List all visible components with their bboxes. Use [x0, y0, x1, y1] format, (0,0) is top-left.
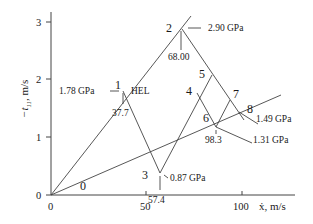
point-label-4: 4: [186, 84, 192, 98]
svg-text:−t11, m/s: −t11, m/s: [18, 80, 33, 118]
path-6-7: [216, 100, 230, 127]
path-1-3: [123, 91, 160, 173]
point-label-1: 1: [115, 78, 121, 92]
diagram-canvas: 3 2 1 0 0 50 100 ẋ, m/s −t11, m/s: [0, 0, 313, 224]
point-label-0: 0: [80, 179, 86, 193]
annotation-pressure-2: 2.90 GPa: [208, 23, 244, 33]
x-tick-label: 0: [48, 201, 53, 212]
annotation-velocity-1: 37.7: [112, 108, 129, 118]
annotation-velocity-6: 98.3: [205, 135, 222, 145]
annotation-pressure-6: 1.31 GPa: [253, 135, 289, 145]
y-tick-label: 0: [36, 190, 41, 201]
y-axis-label: −t11, m/s: [18, 80, 33, 118]
y-tick-label: 3: [36, 17, 41, 28]
point-label-2: 2: [166, 21, 172, 35]
leader-0-87: [164, 175, 168, 178]
point-label-8: 8: [247, 102, 253, 116]
annotation-pressure-3: 0.87 GPa: [170, 173, 206, 183]
point-label-7: 7: [233, 87, 239, 101]
point-label-5: 5: [199, 67, 205, 81]
annotation-velocity-2: 68.00: [168, 52, 190, 62]
y-axis-label-unit: , m/s: [18, 80, 30, 101]
annotation-pressure-1: 1.78 GPa: [59, 86, 95, 96]
x-tick-label: 100: [233, 201, 249, 212]
annotation-pressure-8: 1.49 GPa: [256, 114, 292, 124]
upper-line: [51, 16, 191, 195]
point-label-6: 6: [203, 111, 209, 125]
wave-diagram: 3 2 1 0 0 50 100 ẋ, m/s −t11, m/s: [0, 0, 313, 224]
y-tick-label: 1: [36, 132, 41, 143]
x-axis-label: ẋ, m/s: [259, 200, 286, 212]
annotation-hel: HEL: [131, 86, 150, 96]
path-2-8: [182, 29, 244, 120]
annotation-velocity-3: 57.4: [148, 195, 165, 205]
point-label-3: 3: [142, 168, 148, 182]
y-tick-label: 2: [36, 74, 41, 85]
